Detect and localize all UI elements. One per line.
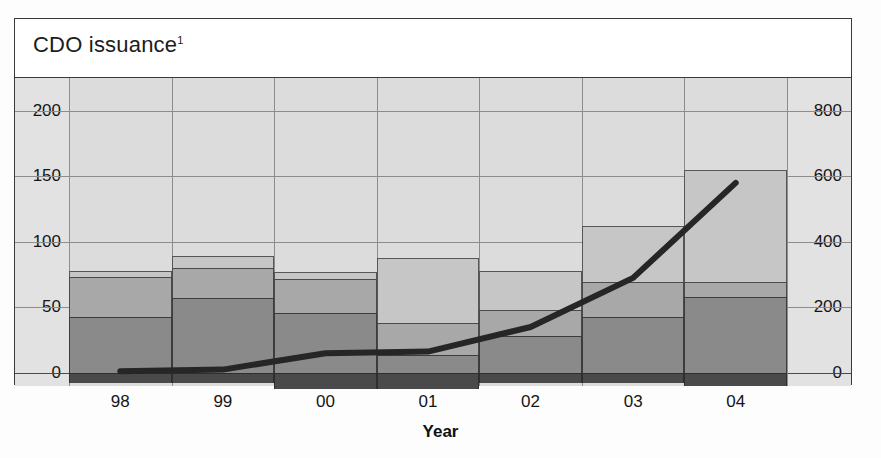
bar-segment-98-segment-dark (69, 317, 172, 373)
left-axis-gutter: 050100150200 (15, 78, 70, 386)
bar-00 (274, 78, 377, 386)
bar-segment-01-segment-dark (377, 355, 480, 373)
x-axis-tick-04: 04 (726, 392, 745, 412)
right-axis-gutter: 0200400600800 (786, 78, 851, 386)
bar-segment-99-bottom (172, 373, 275, 383)
bar-segment-04-segment-light (684, 170, 787, 283)
x-axis-tick-00: 00 (316, 392, 335, 412)
bar-segment-99-segment-mid (172, 268, 275, 298)
chart-title-footnote-marker: 1 (177, 34, 183, 46)
x-axis-title: Year (0, 422, 881, 442)
bar-02 (479, 78, 582, 386)
plot-area (69, 78, 787, 386)
bar-segment-03-segment-light (582, 226, 685, 282)
plot-region: 050100150200 0200400600800 (15, 77, 851, 386)
bar-segment-02-segment-mid (479, 310, 582, 336)
bar-segment-00-segment-light (274, 272, 377, 279)
bar-04 (684, 78, 787, 386)
bar-98 (69, 78, 172, 386)
x-axis-tick-labels: 98990001020304 (14, 392, 852, 418)
x-axis-tick-03: 03 (624, 392, 643, 412)
bar-segment-04-segment-mid (684, 282, 787, 296)
chart-title-text: CDO issuance (33, 32, 177, 57)
bar-segment-00-segment-dark (274, 313, 377, 373)
bar-99 (172, 78, 275, 386)
bar-segment-99-segment-light (172, 256, 275, 268)
bar-segment-00-bottom (274, 373, 377, 389)
bar-segment-03-bottom (582, 373, 685, 383)
bar-segment-02-bottom (479, 373, 582, 383)
bar-segment-04-segment-dark (684, 297, 787, 373)
x-axis-tick-02: 02 (521, 392, 540, 412)
bar-segment-98-segment-mid (69, 277, 172, 316)
x-axis-tick-99: 99 (213, 392, 232, 412)
bar-segment-03-segment-dark (582, 317, 685, 373)
bar-series-group (69, 78, 787, 386)
bar-segment-00-segment-mid (274, 279, 377, 313)
bar-segment-03-segment-mid (582, 282, 685, 316)
bar-segment-02-segment-dark (479, 336, 582, 373)
bar-segment-04-bottom (684, 373, 787, 386)
bar-segment-99-segment-dark (172, 298, 275, 373)
bar-segment-01-segment-light (377, 258, 480, 324)
chart-figure: CDO issuance1 050100150200 0200400600800… (0, 0, 881, 458)
bar-segment-01-segment-mid (377, 323, 480, 354)
bar-01 (377, 78, 480, 386)
chart-frame: CDO issuance1 050100150200 0200400600800 (14, 18, 852, 385)
bar-03 (582, 78, 685, 386)
x-axis-tick-98: 98 (111, 392, 130, 412)
bar-segment-02-segment-light (479, 271, 582, 310)
bar-segment-01-bottom (377, 373, 480, 389)
x-axis-tick-01: 01 (419, 392, 438, 412)
chart-title-band: CDO issuance1 (15, 19, 851, 77)
bar-segment-98-bottom (69, 373, 172, 383)
chart-title: CDO issuance1 (33, 32, 184, 58)
gridline-vertical-7 (787, 78, 788, 386)
bar-segment-98-segment-light (69, 271, 172, 278)
